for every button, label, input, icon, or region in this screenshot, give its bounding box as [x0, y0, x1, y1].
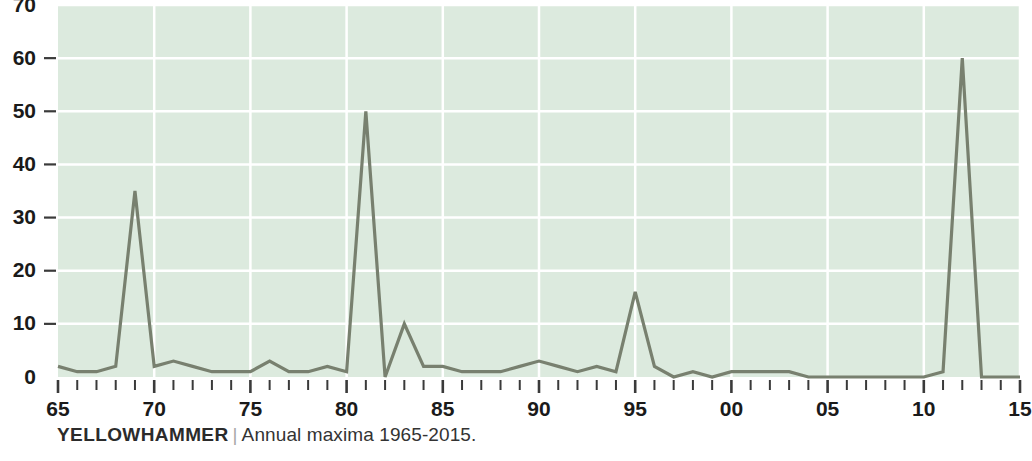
- x-tick-label: 05: [816, 397, 840, 420]
- y-tick-label: 30: [13, 205, 36, 228]
- x-tick-label: 80: [335, 397, 358, 420]
- x-tick-label: 70: [143, 397, 166, 420]
- x-tick-label: 00: [720, 397, 743, 420]
- y-tick-label: 0: [24, 365, 36, 388]
- x-tick-label: 10: [912, 397, 935, 420]
- caption-separator: |: [229, 424, 242, 445]
- y-tick-label: 60: [13, 46, 36, 69]
- x-tick-label: 65: [46, 397, 70, 420]
- x-axis: 6570758085909500051015: [46, 380, 1032, 420]
- x-tick-label: 90: [527, 397, 550, 420]
- x-tick-label: 85: [431, 397, 455, 420]
- y-tick-label: 10: [13, 311, 36, 334]
- annual-maxima-line-chart: 0102030405060706570758085909500051015: [0, 0, 1032, 461]
- x-tick-label: 15: [1008, 397, 1032, 420]
- y-tick-label: 70: [13, 0, 36, 16]
- y-tick-label: 20: [13, 258, 36, 281]
- y-axis: 010203040506070: [13, 0, 56, 388]
- x-tick-label: 95: [624, 397, 648, 420]
- caption-series-name: YELLOWHAMMER: [57, 424, 229, 445]
- y-tick-label: 50: [13, 99, 36, 122]
- chart-figure: 0102030405060706570758085909500051015 YE…: [0, 0, 1032, 461]
- x-tick-label: 75: [239, 397, 263, 420]
- caption-subtitle: Annual maxima 1965-2015.: [242, 424, 477, 445]
- y-tick-label: 40: [13, 152, 36, 175]
- chart-caption: YELLOWHAMMER|Annual maxima 1965-2015.: [57, 424, 476, 446]
